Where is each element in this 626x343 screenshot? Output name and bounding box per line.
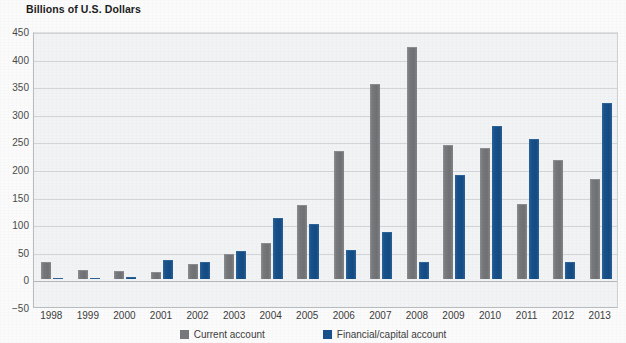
bar-2008-current-account [407,47,417,280]
y-axis-tick-450: 450 [1,27,29,38]
bar-group-2003 [217,33,254,307]
plot-inner [34,33,617,307]
bar-group-2013 [582,33,618,307]
y-axis: 450400350300250200150100500−50 [0,32,29,308]
bar-group-2007 [363,33,400,307]
y-axis-tick-0: 0 [1,275,29,286]
x-axis-tick-2003: 2003 [223,310,245,321]
bar-2005-financial-capital-account [309,224,319,280]
bar-group-2002 [180,33,217,307]
bar-1998-financial-capital-account [53,278,63,279]
bar-2005-current-account [297,205,307,279]
x-axis-tick-2008: 2008 [406,310,428,321]
y-axis-tick-300: 300 [1,109,29,120]
bar-group-2004 [253,33,290,307]
legend-label-financial-capital-account: Financial/capital account [337,329,447,340]
bar-group-2000 [107,33,144,307]
bar-2013-financial-capital-account [602,103,612,280]
x-axis-tick-1999: 1999 [77,310,99,321]
y-axis-tick-250: 250 [1,137,29,148]
bar-2000-financial-capital-account [126,277,136,279]
bar-2012-current-account [553,160,563,280]
y-axis-tick-50: 50 [1,247,29,258]
bar-2010-financial-capital-account [492,126,502,279]
bar-2002-financial-capital-account [200,262,210,280]
x-axis-tick-2011: 2011 [516,310,538,321]
legend-item-financial-capital-account: Financial/capital account [323,329,447,340]
plot-area [33,32,618,308]
bar-group-2005 [290,33,327,307]
bar-group-2001 [144,33,181,307]
y-axis-tick-200: 200 [1,165,29,176]
bar-group-2011 [509,33,546,307]
bar-2001-current-account [151,272,161,279]
bar-2006-current-account [334,151,344,280]
y-axis-tick-400: 400 [1,54,29,65]
bar-2006-financial-capital-account [346,250,356,279]
bar-2009-current-account [443,145,453,280]
bar-2004-financial-capital-account [273,218,283,279]
x-axis: 1998199920002001200220032004200520062007… [33,310,618,326]
x-axis-tick-2001: 2001 [150,310,172,321]
bar-2004-current-account [261,243,271,280]
x-axis-tick-2010: 2010 [479,310,501,321]
legend-swatch-financial-capital-account-icon [323,330,332,339]
bar-2011-financial-capital-account [529,139,539,280]
bar-2007-current-account [370,84,380,280]
bar-group-2010 [473,33,510,307]
chart-legend: Current account Financial/capital accoun… [0,326,626,342]
bar-2002-current-account [188,264,198,279]
y-axis-tick-100: 100 [1,220,29,231]
bar-2013-current-account [590,179,600,279]
x-axis-tick-2006: 2006 [333,310,355,321]
bar-2008-financial-capital-account [419,262,429,280]
bar-2001-financial-capital-account [163,260,173,279]
bar-2011-current-account [517,204,527,280]
y-axis-tick--50: −50 [1,303,29,314]
x-axis-tick-2013: 2013 [589,310,611,321]
bar-2012-financial-capital-account [565,262,575,280]
bar-2000-current-account [114,271,124,279]
bar-1999-financial-capital-account [90,278,100,279]
x-axis-tick-2007: 2007 [369,310,391,321]
bar-2007-financial-capital-account [382,232,392,280]
legend-swatch-current-account-icon [180,330,189,339]
bar-group-2009 [436,33,473,307]
bar-2003-financial-capital-account [236,251,246,280]
y-axis-tick-350: 350 [1,82,29,93]
x-axis-tick-2002: 2002 [186,310,208,321]
bar-group-2008 [400,33,437,307]
x-axis-tick-2009: 2009 [442,310,464,321]
bar-group-2012 [546,33,583,307]
x-axis-tick-1998: 1998 [40,310,62,321]
x-axis-tick-2000: 2000 [113,310,135,321]
bar-2009-financial-capital-account [455,175,465,280]
bar-2010-current-account [480,148,490,279]
x-axis-tick-2012: 2012 [552,310,574,321]
chart-figure: Billions of U.S. Dollars 450400350300250… [0,0,626,343]
x-axis-tick-2005: 2005 [296,310,318,321]
legend-label-current-account: Current account [194,329,265,340]
x-axis-tick-2004: 2004 [260,310,282,321]
bar-2003-current-account [224,254,234,279]
bar-group-2006 [327,33,364,307]
chart-title: Billions of U.S. Dollars [26,3,141,15]
bar-group-1998 [34,33,71,307]
bar-group-1999 [71,33,108,307]
bar-1998-current-account [41,262,51,279]
y-axis-tick-150: 150 [1,192,29,203]
legend-item-current-account: Current account [180,329,265,340]
bar-1999-current-account [78,270,88,279]
